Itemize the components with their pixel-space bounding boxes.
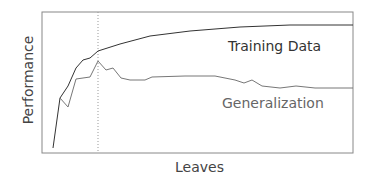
chart-canvas [0,0,370,183]
training-data-label: Training Data [228,38,321,54]
plot-frame [42,12,353,153]
generalization-label: Generalization [222,95,324,111]
y-axis-label: Performance [20,30,36,130]
x-axis-label: Leaves [175,159,224,175]
